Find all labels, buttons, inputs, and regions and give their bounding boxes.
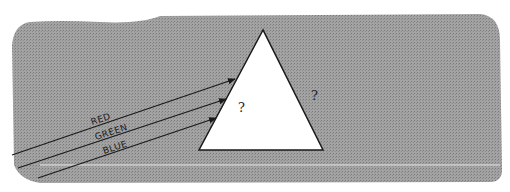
question-mark-inside-prism: ? [238,100,245,115]
question-mark-outside-prism: ? [311,88,318,103]
prism-diagram: RED GREEN BLUE ? ? [0,0,510,192]
